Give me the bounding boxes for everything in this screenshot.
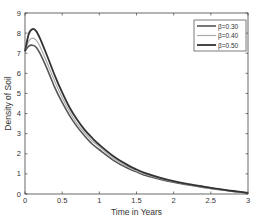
y-axis-label: Density of Soil: [3, 76, 13, 130]
legend-label: β=0.30: [218, 23, 239, 31]
x-axis-label: Time in Years: [111, 207, 162, 217]
legend-label: β=0.50: [218, 42, 239, 50]
y-tick-label: 8: [17, 29, 21, 38]
x-tick-label: 1.5: [131, 196, 141, 205]
legend-label: β=0.40: [218, 32, 239, 40]
plot-area: [25, 29, 248, 193]
x-tick-label: 0: [23, 196, 27, 205]
legend: β=0.30β=0.40β=0.50: [194, 20, 246, 51]
y-tick-label: 2: [17, 149, 21, 158]
x-tick-label: 0.5: [57, 196, 67, 205]
y-tick-label: 0: [17, 190, 21, 199]
chart-svg: 00.511.522.530123456789 β=0.30β=0.40β=0.…: [0, 0, 258, 223]
line-chart: 00.511.522.530123456789 β=0.30β=0.40β=0.…: [0, 0, 258, 223]
series-line-2: [25, 29, 248, 193]
y-tick-label: 1: [17, 169, 21, 178]
x-tick-label: 3: [246, 196, 250, 205]
y-tick-label: 3: [17, 129, 21, 138]
y-tick-label: 4: [17, 109, 21, 118]
x-tick-label: 1: [97, 196, 101, 205]
x-tick-label: 2: [172, 196, 176, 205]
y-tick-label: 7: [17, 49, 21, 58]
x-tick-label: 2.5: [206, 196, 216, 205]
y-tick-label: 5: [17, 89, 21, 98]
y-tick-label: 6: [17, 69, 21, 78]
y-tick-label: 9: [17, 9, 21, 18]
